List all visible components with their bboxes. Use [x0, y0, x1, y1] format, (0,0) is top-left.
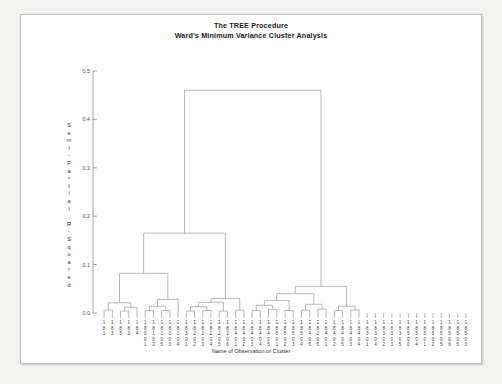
leaf-label-char: 2 [193, 342, 196, 347]
leaf-label-char: 8 [284, 326, 287, 331]
leaf-label-char: 3 [382, 331, 385, 336]
leaf-label-char: 8 [415, 326, 418, 331]
y-tick-label: 0.1 [83, 262, 91, 268]
leaf-label-char: 0 [448, 337, 451, 342]
leaf-label-char: 6 [226, 342, 229, 347]
chart-panel: The TREE Procedure Ward's Minimum Varian… [20, 14, 482, 364]
leaf-label-char: 4 [415, 342, 418, 347]
leaf-label-char: 1 [382, 320, 385, 325]
leaf-label-char: 1 [349, 320, 352, 325]
y-tick-label: 0.4 [83, 116, 91, 122]
leaf-label-char: 4 [325, 331, 328, 336]
y-axis-title-char: r [68, 266, 70, 272]
leaf-label-char: 0 [185, 337, 188, 342]
leaf-label-char: 1 [284, 320, 287, 325]
leaf-label-char: 0 [407, 342, 410, 347]
leaf-label-char: 5 [160, 342, 163, 347]
leaf-label-char: 8 [465, 326, 468, 331]
leaf-label-char: 8 [382, 326, 385, 331]
leaf-label-char: 1 [234, 320, 237, 325]
leaf-label-char: 8 [136, 326, 139, 331]
leaf-label-char: 8 [127, 326, 130, 331]
leaf-label-char: 0 [423, 337, 426, 342]
leaf-label-char: 8 [267, 326, 270, 331]
y-axis-ticks: 0.00.10.20.30.40.5 [83, 68, 98, 316]
leaf-label-char: 8 [251, 326, 254, 331]
leaf-label-char: 0 [366, 337, 369, 342]
leaf-label-char: 0 [169, 331, 172, 336]
leaf-label-char: 1 [333, 320, 336, 325]
leaf-label-char: 1 [366, 342, 369, 347]
leaf-label-char: 4 [349, 331, 352, 336]
leaf-label-char: 8 [152, 326, 155, 331]
leaf-label-char: 8 [119, 326, 122, 331]
leaf-label-char: 1 [308, 320, 311, 325]
leaf-label-char: 1 [177, 331, 180, 336]
leaf-label-char: 2 [243, 342, 246, 347]
y-tick-label: 0.3 [83, 165, 91, 171]
leaf-label-char: 1 [160, 331, 163, 336]
leaf-label-char: 0 [333, 337, 336, 342]
leaf-label-char: 8 [308, 326, 311, 331]
leaf-label-char: 5 [432, 331, 435, 336]
leaf-label-char: 8 [292, 326, 295, 331]
leaf-label-char: 2 [432, 342, 435, 347]
leaf-label-char: 0 [259, 337, 262, 342]
leaf-label-char: 1 [358, 320, 361, 325]
y-tick-label: 0.0 [83, 310, 91, 316]
y-axis-title-char: l [68, 206, 69, 212]
leaf-label-char: 3 [465, 342, 468, 347]
leaf-label-char: 0 [251, 337, 254, 342]
leaf-label-char: 4 [210, 342, 213, 347]
y-axis-title-char: e [67, 130, 70, 136]
leaf-label-char: 2 [333, 342, 336, 347]
y-axis-title-char: a [67, 168, 71, 174]
leaf-label-char: 0 [292, 337, 295, 342]
leaf-label-char: 3 [111, 331, 114, 336]
leaf-label-char: 0 [201, 337, 204, 342]
leaf-label-char: 0 [144, 337, 147, 342]
leaf-label-char: 4 [308, 331, 311, 336]
leaf-label-char: 1 [243, 320, 246, 325]
leaf-label-char: 4 [374, 342, 377, 347]
leaf-label-char: 0 [218, 337, 221, 342]
leaf-label-char: 1 [234, 342, 237, 347]
y-axis-title-char: R [67, 221, 71, 227]
leaf-label-char: 0 [169, 337, 172, 342]
leaf-label-char: 8 [226, 326, 229, 331]
leaf-label-char: 5 [399, 342, 402, 347]
leaf-label-char: 1 [226, 320, 229, 325]
y-axis-title-char: - [68, 152, 70, 158]
leaf-label-char: 1 [325, 320, 328, 325]
leaf-label-char: 5 [415, 331, 418, 336]
leaf-label-char: 2 [201, 331, 204, 336]
leaf-label-char: 1 [325, 342, 328, 347]
y-axis-title-char: u [67, 251, 70, 257]
leaf-label-char: 8 [325, 326, 328, 331]
leaf-label-char: 1 [127, 320, 130, 325]
y-axis-title-char: d [67, 282, 70, 288]
leaf-label-char: 0 [440, 337, 443, 342]
leaf-label-char: 8 [349, 326, 352, 331]
leaf-label-char: 2 [127, 331, 130, 336]
leaf-label-char: 3 [391, 342, 394, 347]
leaf-label-char: 0 [284, 337, 287, 342]
leaf-label-char: 8 [210, 326, 213, 331]
leaf-label-char: 1 [432, 320, 435, 325]
leaf-label-char: 2 [210, 331, 213, 336]
leaf-label-char: 3 [349, 342, 352, 347]
leaf-label-char: 0 [465, 337, 468, 342]
leaf-label-char: 8 [103, 326, 106, 331]
leaf-label-char: 1 [152, 320, 155, 325]
leaf-label-char: 8 [407, 326, 410, 331]
leaf-label-char: 2 [193, 331, 196, 336]
leaf-label-char: 8 [423, 326, 426, 331]
y-axis-title: Semi-PartialR-Squared [67, 122, 72, 288]
y-tick-label: 0.5 [83, 68, 91, 74]
leaf-label-char: 0 [374, 337, 377, 342]
leaf-label-char: 2 [152, 342, 155, 347]
leaf-label-char: 0 [382, 337, 385, 342]
leaf-label-char: 1 [169, 320, 172, 325]
leaf-label-char: 5 [440, 331, 443, 336]
leaf-label-char: 1 [111, 320, 114, 325]
